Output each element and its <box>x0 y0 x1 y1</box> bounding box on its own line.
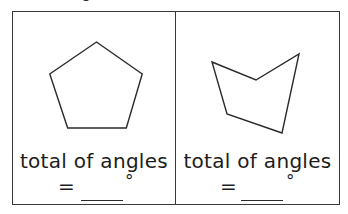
total-of-angles-label: total of angles <box>176 149 339 173</box>
angles-worksheet: total of angles = ° total of angles = ° <box>12 11 340 205</box>
irregular-pentagon-shape <box>176 12 339 152</box>
panel-regular-pentagon: total of angles = ° <box>13 12 176 204</box>
total-of-angles-label: total of angles <box>13 149 175 173</box>
answer-blank[interactable] <box>81 200 123 201</box>
regular-pentagon-shape <box>13 12 175 152</box>
degree-symbol: ° <box>286 171 295 191</box>
equals-sign: = <box>58 174 75 198</box>
answer-blank[interactable] <box>241 200 283 201</box>
answer-row: = ° <box>176 174 339 204</box>
equals-sign: = <box>220 174 237 198</box>
clipped-heading-descender <box>82 0 90 1</box>
panel-irregular-pentagon: total of angles = ° <box>176 12 339 204</box>
answer-row: = ° <box>13 174 175 204</box>
degree-symbol: ° <box>125 171 134 191</box>
